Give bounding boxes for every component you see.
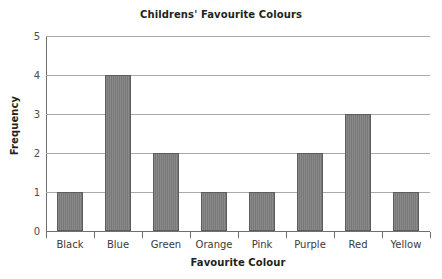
- bar-slot: [382, 36, 430, 231]
- x-tick-label-orange: Orange: [190, 239, 238, 250]
- x-tick-mark: [382, 232, 383, 238]
- y-tick-label: 1: [14, 187, 40, 198]
- bar-slot: [238, 36, 286, 231]
- bar-red: [345, 114, 371, 231]
- bar-slot: [334, 36, 382, 231]
- x-tick-mark: [94, 232, 95, 238]
- x-tick-label-pink: Pink: [238, 239, 286, 250]
- x-tick-label-green: Green: [142, 239, 190, 250]
- bar-green: [153, 153, 179, 231]
- x-tick-mark: [430, 232, 431, 238]
- bar-slot: [94, 36, 142, 231]
- x-tick-mark: [238, 232, 239, 238]
- x-tick-label-purple: Purple: [286, 239, 334, 250]
- x-tick-mark: [46, 232, 47, 238]
- y-tick-label: 2: [14, 148, 40, 159]
- bar-slot: [286, 36, 334, 231]
- y-tick-label: 0: [14, 226, 40, 237]
- bar-blue: [105, 75, 131, 231]
- bar-chart-figure: Childrens' Favourite Colours Frequency 0…: [0, 0, 442, 279]
- x-tick-mark: [286, 232, 287, 238]
- y-axis-tick-labels: 012345: [10, 36, 40, 231]
- plot-area: [46, 36, 430, 231]
- bar-slot: [190, 36, 238, 231]
- x-tick-mark: [190, 232, 191, 238]
- bar-pink: [249, 192, 275, 231]
- bar-slot: [46, 36, 94, 231]
- x-tick-label-black: Black: [46, 239, 94, 250]
- bar-black: [57, 192, 83, 231]
- y-tick-label: 5: [14, 31, 40, 42]
- bar-yellow: [393, 192, 419, 231]
- bar-purple: [297, 153, 323, 231]
- x-tick-mark: [142, 232, 143, 238]
- bar-orange: [201, 192, 227, 231]
- x-axis-title: Favourite Colour: [46, 257, 430, 268]
- chart-title: Childrens' Favourite Colours: [0, 9, 442, 20]
- bar-slot: [142, 36, 190, 231]
- y-tick-label: 3: [14, 109, 40, 120]
- x-tick-mark: [334, 232, 335, 238]
- x-tick-label-yellow: Yellow: [382, 239, 430, 250]
- x-tick-label-blue: Blue: [94, 239, 142, 250]
- x-tick-label-red: Red: [334, 239, 382, 250]
- y-tick-label: 4: [14, 70, 40, 81]
